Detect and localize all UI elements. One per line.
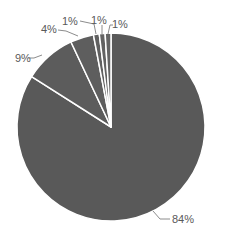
data-label-4: 4%: [41, 23, 57, 35]
leader-line-2: [58, 30, 78, 36]
data-label-1c: 1%: [112, 18, 128, 30]
data-label-1a: 1%: [62, 15, 78, 27]
data-label-1b: 1%: [91, 14, 107, 26]
data-label-9: 9%: [15, 52, 31, 64]
pie-slices: [17, 33, 205, 221]
data-label-84: 84%: [172, 213, 194, 225]
leader-line-0: [153, 211, 170, 219]
pie-chart: 84% 9% 4% 1% 1% 1%: [0, 0, 242, 247]
